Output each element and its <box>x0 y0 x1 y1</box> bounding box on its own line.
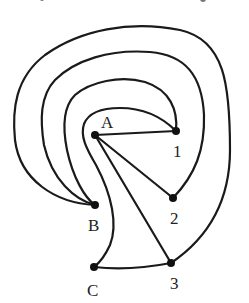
graph-diagram: A B C 1 2 3 <box>0 0 249 303</box>
vertex-3 <box>167 259 175 267</box>
label-2: 2 <box>170 209 179 228</box>
vertex-B <box>91 201 99 209</box>
label-3: 3 <box>170 274 179 293</box>
vertex-2 <box>169 194 177 202</box>
clipped-heading-fragment <box>40 0 44 1</box>
label-C: C <box>87 281 98 300</box>
vertex-1 <box>172 127 180 135</box>
edge-C-3 <box>94 263 171 268</box>
label-B: B <box>88 216 99 235</box>
clipped-heading-fragment <box>200 0 206 2</box>
edge-3-B <box>14 26 230 263</box>
vertex-A <box>91 131 99 139</box>
vertex-C <box>90 263 98 271</box>
label-1: 1 <box>173 142 182 161</box>
label-A: A <box>101 113 114 132</box>
edge-A-3 <box>95 135 171 263</box>
